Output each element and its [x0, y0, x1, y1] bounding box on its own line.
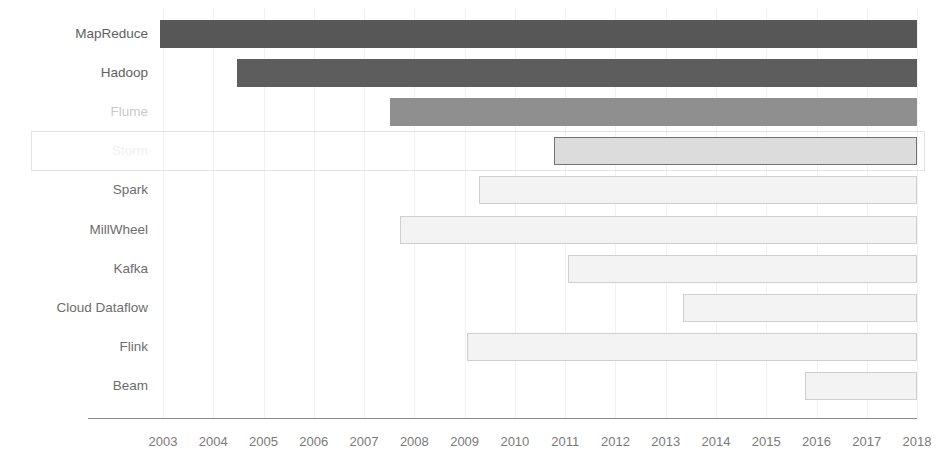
bar-storm[interactable]: [554, 137, 917, 165]
row-label-flume: Flume: [110, 105, 148, 119]
row-label-kafka: Kafka: [113, 262, 148, 276]
x-axis-line: [88, 418, 917, 419]
tick-label-2013: 2013: [651, 435, 680, 448]
tick-label-2007: 2007: [350, 435, 379, 448]
tick-label-2008: 2008: [400, 435, 429, 448]
bar-millwheel[interactable]: [400, 216, 917, 244]
bar-kafka[interactable]: [568, 255, 917, 283]
timeline-chart: MapReduceHadoopFlumeStormSparkMillWheelK…: [0, 0, 945, 472]
tick-label-2009: 2009: [450, 435, 479, 448]
bar-mapreduce[interactable]: [160, 20, 917, 48]
tick-label-2011: 2011: [551, 435, 579, 448]
bar-flume[interactable]: [390, 98, 917, 126]
tick-label-2012: 2012: [601, 435, 630, 448]
tick-label-2018: 2018: [903, 435, 932, 448]
tick-label-2016: 2016: [802, 435, 831, 448]
bar-spark[interactable]: [479, 176, 917, 204]
row-label-hadoop: Hadoop: [101, 66, 148, 80]
bar-beam[interactable]: [805, 372, 917, 400]
row-label-cloud-dataflow: Cloud Dataflow: [56, 301, 148, 315]
row-label-mapreduce: MapReduce: [75, 27, 148, 41]
tick-label-2005: 2005: [249, 435, 278, 448]
gridline-2004: [213, 8, 214, 418]
row-label-flink: Flink: [119, 340, 148, 354]
row-label-spark: Spark: [113, 183, 148, 197]
bar-cloud-dataflow[interactable]: [683, 294, 917, 322]
gridline-2003: [163, 8, 164, 418]
category-labels: MapReduceHadoopFlumeStormSparkMillWheelK…: [0, 0, 148, 420]
tick-label-2017: 2017: [852, 435, 881, 448]
bar-hadoop[interactable]: [237, 59, 917, 87]
tick-label-2006: 2006: [299, 435, 328, 448]
row-label-beam: Beam: [113, 379, 148, 393]
tick-label-2003: 2003: [149, 435, 178, 448]
row-label-millwheel: MillWheel: [89, 223, 148, 237]
tick-label-2015: 2015: [752, 435, 781, 448]
row-label-storm: Storm: [112, 144, 148, 158]
tick-label-2004: 2004: [199, 435, 228, 448]
tick-label-2014: 2014: [702, 435, 731, 448]
bar-flink[interactable]: [467, 333, 917, 361]
tick-label-2010: 2010: [500, 435, 529, 448]
gridline-2018: [917, 8, 918, 418]
